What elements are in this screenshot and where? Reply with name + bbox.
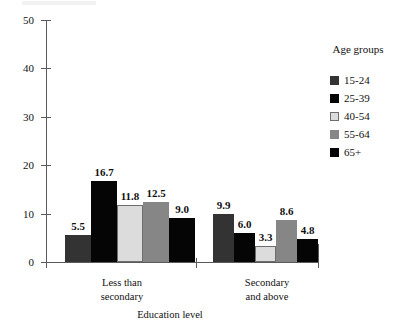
legend-item[interactable]: 65+ — [330, 144, 399, 160]
bar — [297, 239, 318, 262]
bar-value-label: 9.9 — [209, 200, 238, 211]
bar-value-label: 5.5 — [61, 221, 95, 232]
legend-swatch-icon — [330, 130, 339, 139]
legend-item[interactable]: 25-39 — [330, 90, 399, 106]
y-tick-label: 0 — [0, 257, 34, 268]
scan-artifact — [22, 1, 96, 5]
legend-item-label: 15-24 — [344, 75, 370, 86]
bar — [169, 218, 195, 262]
bar-chart: 01020304050 5.516.711.812.59.09.96.03.38… — [0, 0, 399, 329]
bar — [255, 246, 276, 262]
x-axis-group-label-line: Less than — [77, 276, 167, 290]
y-tick-label: 10 — [0, 209, 34, 220]
bar — [65, 235, 91, 262]
bar-value-label: 12.5 — [139, 188, 173, 199]
x-axis-title: Education level — [0, 309, 340, 321]
bar-value-label: 3.3 — [251, 232, 280, 243]
legend-item-label: 65+ — [344, 147, 361, 158]
bar-value-label: 8.6 — [272, 206, 301, 217]
legend-item-label: 55-64 — [344, 129, 370, 140]
x-axis-group-label-line: and above — [222, 290, 312, 304]
bar-value-label: 4.8 — [293, 225, 322, 236]
y-tick-label: 50 — [0, 15, 34, 26]
x-axis-group-label-line: Secondary — [222, 276, 312, 290]
legend-swatch-icon — [330, 94, 339, 103]
legend-item[interactable]: 15-24 — [330, 72, 399, 88]
legend-title: Age groups — [330, 42, 386, 56]
legend-item[interactable]: 55-64 — [330, 126, 399, 142]
legend-swatch-icon — [330, 112, 339, 121]
y-tick-label: 20 — [0, 160, 34, 171]
legend-items: 15-2425-3940-5455-6465+ — [330, 72, 399, 160]
legend-item-label: 25-39 — [344, 93, 370, 104]
legend-item[interactable]: 40-54 — [330, 108, 399, 124]
x-axis-line — [46, 262, 319, 263]
legend: Age groups 15-2425-3940-5455-6465+ — [330, 42, 399, 162]
y-tick-label: 40 — [0, 63, 34, 74]
legend-item-label: 40-54 — [344, 111, 370, 122]
legend-swatch-icon — [330, 76, 339, 85]
x-axis-group-label: Less thansecondary — [77, 276, 167, 304]
x-axis-group-label-line: secondary — [77, 290, 167, 304]
bar-value-label: 16.7 — [87, 167, 121, 178]
bar — [117, 205, 143, 262]
legend-swatch-icon — [330, 148, 339, 157]
bar-value-label: 9.0 — [165, 204, 199, 215]
y-tick-label: 30 — [0, 112, 34, 123]
x-tick-mark — [318, 258, 319, 268]
bar-value-label: 6.0 — [230, 219, 259, 230]
x-axis-group-label: Secondaryand above — [222, 276, 312, 304]
